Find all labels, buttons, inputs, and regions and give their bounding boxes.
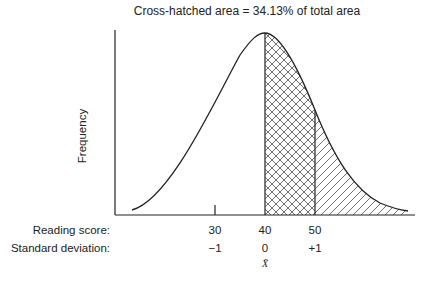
normal-curve-plot	[0, 0, 432, 281]
score-tick-50: 50	[300, 224, 330, 236]
sd-tick-plus1: +1	[300, 242, 330, 254]
cross-hatched-region	[124, 33, 408, 215]
score-tick-40: 40	[250, 224, 280, 236]
score-tick-30: 30	[200, 224, 230, 236]
y-axis-label: Frequency	[76, 96, 88, 176]
standard-deviation-label: Standard deviation:	[0, 242, 110, 254]
reading-score-label: Reading score:	[0, 224, 110, 236]
sd-tick-minus1: −1	[200, 242, 230, 254]
mean-symbol: X̄	[255, 258, 275, 269]
sd-tick-0: 0	[250, 242, 280, 254]
